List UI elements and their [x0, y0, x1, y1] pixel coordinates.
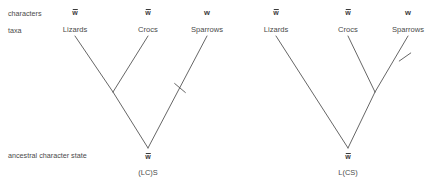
- phylogeny-figure: characters taxa ancestral character stat…: [0, 0, 438, 188]
- left-tree-sparrows-branch: [148, 36, 207, 148]
- right-tree-internal-to-root-branch: [348, 92, 375, 148]
- left-tree-crocs-branch: [113, 36, 148, 92]
- left-tree-sparrows-change-mark: [175, 84, 186, 93]
- left-tree-lizards-branch: [75, 36, 113, 92]
- right-tree-crocs-branch: [348, 36, 375, 92]
- tree-branches-layer: [0, 0, 438, 188]
- right-tree-sparrows-change-mark: [399, 53, 410, 61]
- right-tree-sparrows-branch: [375, 36, 408, 92]
- left-tree-internal-to-root-branch: [113, 92, 148, 148]
- right-tree-lizards-branch: [276, 36, 348, 148]
